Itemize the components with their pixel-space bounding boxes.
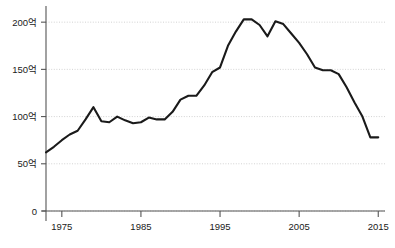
y-axis-tick-marks xyxy=(41,22,46,211)
x-axis-tick-marks xyxy=(62,211,378,217)
y-axis-tick-labels: 050억100억150억200억 xyxy=(12,17,37,217)
gridlines xyxy=(46,22,385,211)
x-axis-tick-label: 2015 xyxy=(368,221,389,232)
y-axis-tick-label: 50억 xyxy=(17,158,37,169)
x-axis-tick-label: 2005 xyxy=(289,221,310,232)
x-axis-tick-label: 1975 xyxy=(51,221,72,232)
y-axis-tick-label: 0 xyxy=(32,206,37,217)
y-axis-tick-label: 100억 xyxy=(12,111,37,122)
x-axis-tick-label: 1985 xyxy=(130,221,151,232)
line-chart: 050억100억150억200억 19751985199520052015 xyxy=(0,0,395,248)
y-axis-tick-label: 150억 xyxy=(12,64,37,75)
x-axis-tick-labels: 19751985199520052015 xyxy=(51,221,389,232)
data-series-line xyxy=(46,19,378,152)
y-axis-tick-label: 200억 xyxy=(12,17,37,28)
chart-container: 050억100억150억200억 19751985199520052015 xyxy=(0,0,395,248)
x-axis-tick-label: 1995 xyxy=(209,221,230,232)
